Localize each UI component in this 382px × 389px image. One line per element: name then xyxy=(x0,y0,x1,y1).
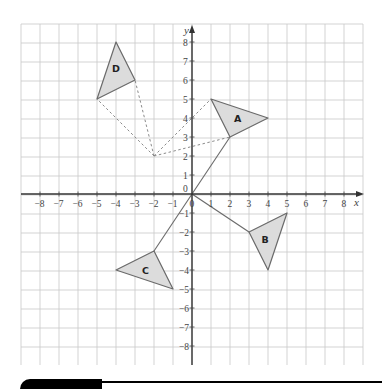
axes: x y xyxy=(21,24,364,365)
y-tick-label: 4 xyxy=(183,114,188,124)
triangle-c: C xyxy=(116,251,173,289)
y-tick-label: 2 xyxy=(183,152,188,162)
y-tick-label: 3 xyxy=(183,133,188,143)
dashed-line xyxy=(154,99,211,156)
triangle-a: A xyxy=(211,99,268,137)
x-tick-label: 2 xyxy=(228,199,233,209)
dashed-line xyxy=(135,80,154,156)
y-tick-label: −8 xyxy=(179,342,189,352)
bottom-banner-bar xyxy=(20,379,382,386)
triangle-label: D xyxy=(112,63,120,74)
y-tick-label: −6 xyxy=(179,304,189,314)
triangle-label: A xyxy=(234,113,242,124)
y-tick-label: 5 xyxy=(183,95,188,105)
x-tick-label: 5 xyxy=(285,199,290,209)
x-tick-label: −2 xyxy=(149,199,159,209)
x-tick-label: 4 xyxy=(266,199,271,209)
x-tick-label: 3 xyxy=(247,199,252,209)
x-tick-label: 7 xyxy=(323,199,328,209)
y-axis-arrow-icon xyxy=(189,25,195,33)
solid-line xyxy=(192,194,249,232)
y-tick-label: 6 xyxy=(183,76,188,86)
y-tick-label: 1 xyxy=(183,171,188,181)
y-tick-label: −3 xyxy=(179,247,189,257)
banner-tab xyxy=(20,379,102,389)
x-tick-label: −1 xyxy=(168,199,178,209)
x-tick-label: −8 xyxy=(35,199,45,209)
x-axis-label: x xyxy=(353,196,359,208)
y-tick-label: −2 xyxy=(179,228,189,238)
origin-label: 0 xyxy=(183,184,188,194)
y-axis-label: y xyxy=(183,24,189,36)
x-tick-label: 6 xyxy=(304,199,309,209)
x-tick-label: −7 xyxy=(54,199,64,209)
x-tick-label: 8 xyxy=(342,199,347,209)
y-tick-label: −1 xyxy=(179,209,189,219)
y-tick-label: −7 xyxy=(179,323,189,333)
x-tick-label: −5 xyxy=(92,199,102,209)
dashed-construction-lines xyxy=(97,80,230,156)
y-tick-label: 8 xyxy=(183,38,188,48)
y-tick-label: −4 xyxy=(179,266,189,276)
origin-label-x: 0 xyxy=(190,199,195,209)
x-tick-label: 1 xyxy=(209,199,214,209)
banner-rule xyxy=(102,381,382,383)
x-tick-label: −6 xyxy=(73,199,83,209)
triangle-label: C xyxy=(142,265,149,276)
x-tick-label: −4 xyxy=(111,199,121,209)
y-tick-label: −5 xyxy=(179,285,189,295)
y-tick-label: 7 xyxy=(183,57,188,67)
dashed-line xyxy=(97,99,154,156)
triangle-label: B xyxy=(262,234,269,245)
x-tick-label: −3 xyxy=(130,199,140,209)
